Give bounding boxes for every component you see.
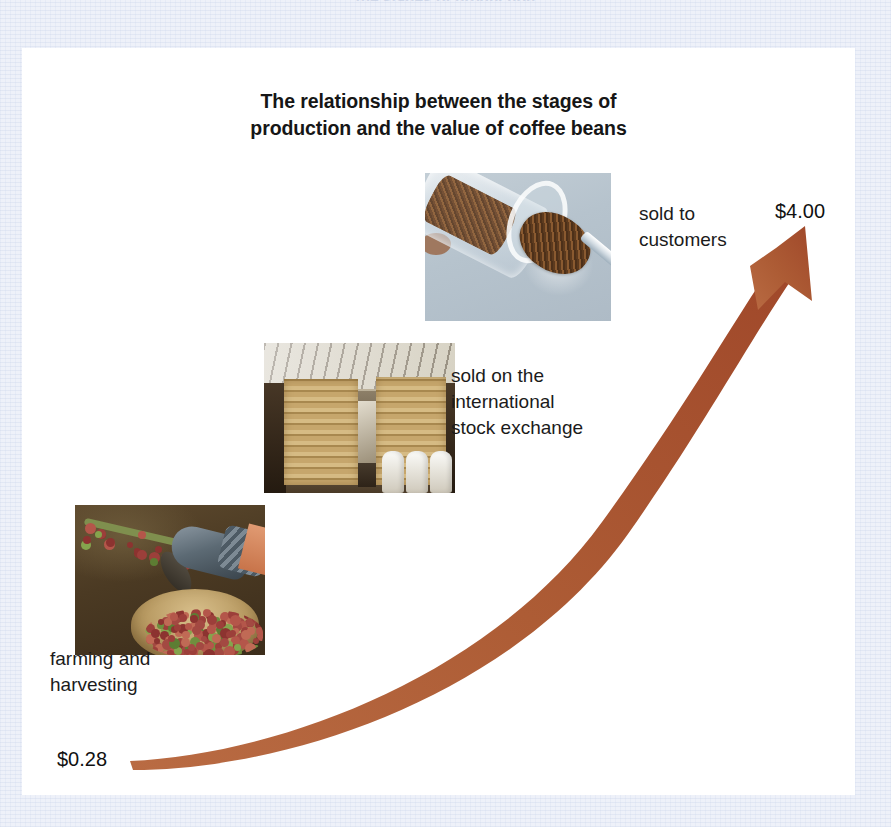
caption-sold-on-exchange: sold on the international stock exchange xyxy=(451,363,583,440)
coffee-cherry xyxy=(256,627,263,635)
sack-stack-left xyxy=(284,379,358,485)
coffee-cherry xyxy=(151,629,160,638)
coffee-cherry xyxy=(216,621,224,629)
coffee-cherry xyxy=(201,636,207,642)
coffee-cherry xyxy=(245,643,256,654)
photo-instant-coffee-jar-spoon xyxy=(425,173,611,321)
coffee-cherry xyxy=(241,630,251,640)
coffee-cherry xyxy=(214,648,224,655)
coffee-cherry xyxy=(174,624,181,631)
white-sack-3 xyxy=(430,451,452,493)
coffee-cherry xyxy=(83,536,91,544)
coffee-cherry-pile xyxy=(145,609,263,655)
diagram-page: …the stages of production… The relations… xyxy=(0,0,891,827)
photo-warehouse-coffee-sacks xyxy=(264,343,455,493)
coffee-cherry xyxy=(152,647,158,653)
coffee-cherry xyxy=(137,550,147,560)
caption-farming-harvesting: farming and harvesting xyxy=(50,646,150,698)
coffee-cherry xyxy=(204,649,215,655)
value-label-high: $4.00 xyxy=(775,200,825,223)
coffee-cherry xyxy=(154,638,160,644)
page-title: The relationship between the stages of p… xyxy=(22,88,855,142)
coffee-cherry xyxy=(224,646,235,655)
white-sack-2 xyxy=(406,451,428,493)
caption-sold-to-customers: sold to customers xyxy=(639,201,727,253)
cut-off-header-text: …the stages of production… xyxy=(0,0,891,1)
coffee-cherry xyxy=(196,642,204,650)
aisle-shadow-left xyxy=(264,383,286,493)
coffee-cherry xyxy=(150,558,158,566)
coffee-cherry xyxy=(190,615,198,623)
white-sack-1 xyxy=(382,451,404,493)
photo-harvesting-coffee-cherries xyxy=(75,505,265,655)
coffee-cherry xyxy=(170,613,178,621)
coffee-cherry xyxy=(179,614,187,622)
coffee-cherry xyxy=(212,634,221,643)
diagram-card: The relationship between the stages of p… xyxy=(22,48,855,795)
value-label-low: $0.28 xyxy=(57,748,107,771)
coffee-cherry xyxy=(253,638,259,644)
coffee-cherry xyxy=(185,623,192,630)
page-title-line-1: The relationship between the stages of xyxy=(22,88,855,115)
coffee-cherry xyxy=(85,523,96,534)
coffee-cherry xyxy=(106,538,115,547)
coffee-cherry xyxy=(207,615,217,625)
page-title-line-2: production and the value of coffee beans xyxy=(22,115,855,142)
coffee-cherry xyxy=(167,650,174,655)
coffee-cherry xyxy=(127,542,133,548)
arrow-head xyxy=(750,226,812,310)
